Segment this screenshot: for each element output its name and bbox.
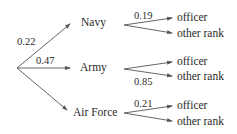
leaf-army-officer: officer — [177, 55, 207, 68]
node-airforce: Air Force — [73, 106, 117, 119]
edge-army-officer — [124, 62, 172, 69]
prob-navy-officer: 0.19 — [134, 10, 152, 22]
node-navy: Navy — [81, 16, 106, 29]
prob-navy: 0.22 — [17, 36, 35, 48]
prob-army: 0.47 — [36, 55, 54, 67]
prob-airforce-officer: 0.21 — [134, 98, 152, 110]
edge-root-airforce — [17, 68, 67, 110]
edge-army-other — [124, 69, 172, 76]
leaf-airforce-officer: officer — [177, 99, 207, 112]
leaf-airforce-other-rank: other rank — [177, 115, 224, 128]
leaf-army-other-rank: other rank — [177, 70, 224, 83]
edge-airforce-other — [124, 113, 172, 121]
node-army: Army — [80, 61, 107, 74]
leaf-navy-other-rank: other rank — [177, 27, 224, 40]
leaf-navy-officer: officer — [177, 11, 207, 24]
edge-navy-other — [124, 25, 172, 33]
prob-army-other-rank: 0.85 — [134, 76, 152, 88]
